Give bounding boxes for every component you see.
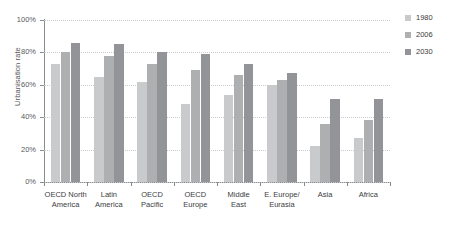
bar	[374, 99, 384, 182]
x-axis-tick	[131, 182, 132, 186]
legend-label: 1980	[416, 11, 433, 25]
bar	[157, 52, 167, 182]
bar	[234, 75, 244, 182]
bar	[191, 70, 201, 182]
bar	[330, 99, 340, 182]
legend-label: 2006	[416, 28, 433, 42]
x-axis-tick	[347, 182, 348, 186]
y-axis-label: 100%	[4, 16, 36, 24]
y-axis-label: 20%	[4, 146, 36, 154]
bar	[244, 64, 254, 182]
bar	[61, 52, 71, 182]
bar	[104, 56, 114, 182]
plot-area: 0%20%40%60%80%100%	[44, 20, 390, 182]
y-axis-tick	[40, 150, 44, 151]
bar	[51, 64, 61, 182]
x-axis-label: Africa	[342, 190, 395, 200]
bar	[71, 43, 81, 182]
bar	[320, 124, 330, 182]
bar	[114, 44, 124, 182]
x-axis-label-line: Eurasia	[255, 200, 308, 210]
y-axis-label: 0%	[4, 178, 36, 186]
y-axis-label: 80%	[4, 48, 36, 56]
x-axis-tick	[87, 182, 88, 186]
bar	[277, 80, 287, 182]
gridline	[44, 20, 390, 21]
x-axis-tick	[304, 182, 305, 186]
legend-item: 2030	[405, 45, 455, 62]
y-axis-tick	[40, 117, 44, 118]
urbanisation-rate-bar-chart: Urbanisation rate 0%20%40%60%80%100% OEC…	[0, 0, 456, 229]
legend-item: 1980	[405, 11, 455, 28]
gridline	[44, 52, 390, 53]
bar	[310, 146, 320, 182]
x-axis-label-line: Africa	[342, 190, 395, 200]
bar	[287, 73, 297, 182]
x-axis-tick	[44, 182, 45, 186]
y-axis-tick	[40, 52, 44, 53]
x-axis-tick	[390, 182, 391, 186]
chart-legend: 198020062030	[405, 11, 455, 62]
x-axis-tick	[260, 182, 261, 186]
bar	[354, 138, 364, 182]
bar	[147, 64, 157, 182]
bar	[267, 85, 277, 182]
y-axis-label: 60%	[4, 81, 36, 89]
y-axis-tick	[40, 85, 44, 86]
legend-label: 2030	[416, 45, 433, 59]
legend-swatch-icon	[405, 32, 411, 38]
bar	[137, 82, 147, 182]
bar	[201, 54, 211, 182]
x-axis-tick	[174, 182, 175, 186]
bar	[181, 104, 191, 182]
bar	[364, 120, 374, 182]
legend-swatch-icon	[405, 49, 411, 55]
y-axis-label: 40%	[4, 113, 36, 121]
legend-item: 2006	[405, 28, 455, 45]
x-axis-tick	[217, 182, 218, 186]
legend-swatch-icon	[405, 15, 411, 21]
y-axis-tick	[40, 20, 44, 21]
bar	[224, 95, 234, 182]
bar	[94, 77, 104, 182]
